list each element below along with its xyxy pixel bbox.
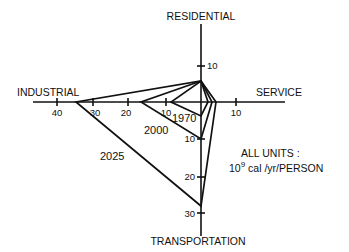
energy-use-radar-diagram: RESIDENTIAL INDUSTRIAL SERVICE TRANSPORT…	[0, 0, 349, 252]
tick-label-service-10: 10	[231, 107, 242, 118]
polygon-1970	[171, 81, 208, 116]
units-label-line2: 109 cal /yr/PERSON	[229, 160, 323, 174]
tick-label-transportation-10: 10	[184, 133, 195, 144]
tick-label-transportation-20: 20	[184, 171, 195, 182]
tick-label-industrial-40: 40	[52, 107, 63, 118]
units-label-line1: ALL UNITS :	[241, 147, 300, 159]
series-polygons	[76, 81, 216, 206]
axis-title-transportation: TRANSPORTATION	[150, 235, 245, 247]
series-label-1970: 1970	[172, 112, 196, 124]
axis-title-residential: RESIDENTIAL	[167, 10, 236, 22]
tick-label-industrial-30: 30	[90, 107, 101, 118]
axis-title-service: SERVICE	[256, 86, 302, 98]
tick-label-residential-10: 10	[207, 60, 218, 71]
axis-title-industrial: INDUSTRIAL	[17, 86, 80, 98]
tick-label-transportation-30: 30	[184, 208, 195, 219]
tick-label-industrial-10: 10	[161, 107, 172, 118]
tick-label-industrial-20: 20	[121, 107, 132, 118]
series-label-2000: 2000	[144, 124, 168, 136]
series-label-2025: 2025	[100, 150, 124, 162]
